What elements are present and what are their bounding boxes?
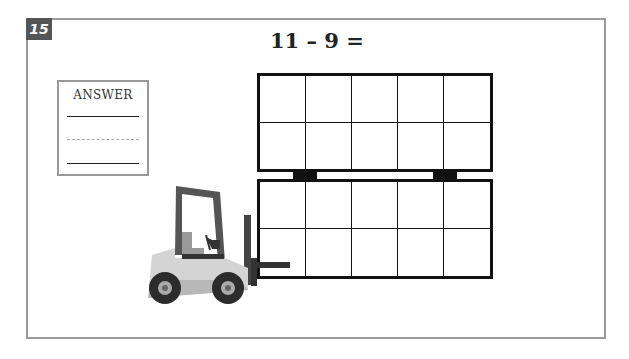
ten-frame-cell [444,229,490,276]
ten-frame-cell [352,229,398,276]
ten-frame-top [257,73,493,172]
problem-number-badge: 15 [26,18,52,40]
answer-line-top [67,116,139,117]
answer-label: ANSWER [59,88,147,102]
ten-frame-cell [260,123,306,170]
ten-frame-cell [260,76,306,123]
ten-frame-cell [306,229,352,276]
answer-box[interactable]: ANSWER [57,80,149,176]
ten-frame-cell [398,229,444,276]
ten-frame-cell [352,182,398,229]
answer-line-bottom [67,163,139,164]
ten-frame-cell [444,76,490,123]
equation-text: 11 – 9 = [270,28,380,53]
ten-frame-cell [352,123,398,170]
answer-line-dashed [67,139,139,140]
forklift-icon [140,180,300,305]
ten-frame-cell [398,123,444,170]
ten-frame-cell [306,76,352,123]
ten-frame-cell [398,76,444,123]
ten-frame-cell [352,76,398,123]
ten-frame-cell [306,182,352,229]
ten-frame-cell [398,182,444,229]
ten-frame-cell [306,123,352,170]
ten-frame-cell [444,182,490,229]
ten-frame-cell [444,123,490,170]
